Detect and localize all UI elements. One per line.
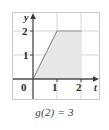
figure-container: y t 2 1 0 1 2 g(2) = 3 <box>0 0 109 130</box>
x-tick-label-1: 1 <box>52 82 58 93</box>
origin-label: 0 <box>21 82 27 93</box>
x-axis-arrow-icon <box>93 76 99 82</box>
y-tick-label-2: 2 <box>22 26 28 37</box>
figure-caption: g(2) = 3 <box>0 106 109 118</box>
y-axis-arrow-icon <box>30 13 36 19</box>
y-tick-label-1: 1 <box>23 50 29 61</box>
x-tick-label-2: 2 <box>76 82 82 93</box>
y-axis-label: y <box>24 13 28 23</box>
x-axis-label: t <box>94 83 97 93</box>
